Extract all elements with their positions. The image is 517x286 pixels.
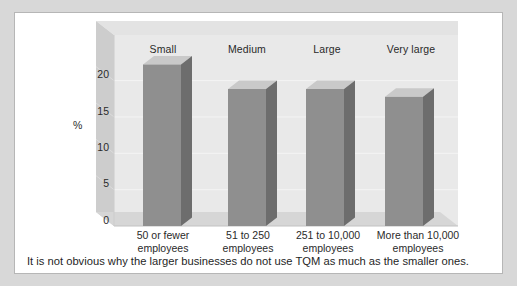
plot-ceiling <box>96 21 458 35</box>
y-tick-0: 0 <box>87 214 109 226</box>
y-tick-15: 15 <box>87 105 109 117</box>
bar-chart: Small Medium Large Very large 20 15 10 5… <box>15 13 504 245</box>
y-axis-title: % <box>73 119 82 131</box>
bar-group-large <box>306 81 355 227</box>
bar-group-small <box>143 56 192 226</box>
y-tick-5: 5 <box>87 177 109 189</box>
bar-side-medium <box>266 81 277 227</box>
bar-front-very-large <box>385 97 423 226</box>
x-label-small-line1: 50 or fewer <box>120 229 206 242</box>
x-label-medium-line1: 51 to 250 <box>207 229 289 242</box>
bar-front-large <box>306 89 344 226</box>
bar-front-small <box>143 65 181 227</box>
figure-panel: Small Medium Large Very large 20 15 10 5… <box>14 12 503 274</box>
category-header-medium: Medium <box>215 43 279 55</box>
bar-side-large <box>344 81 355 227</box>
bar-side-very-large <box>423 88 434 226</box>
y-tick-10: 10 <box>87 141 109 153</box>
category-header-large: Large <box>297 43 357 55</box>
category-header-small: Small <box>133 43 193 55</box>
figure-caption: It is not obvious why the larger busines… <box>15 247 502 274</box>
category-header-very-large: Very large <box>370 43 452 55</box>
y-tick-20: 20 <box>87 68 109 80</box>
bar-group-medium <box>228 81 277 227</box>
bar-group-very-large <box>385 88 434 226</box>
plot-left-wall <box>96 21 114 226</box>
x-label-large-line1: 251 to 10,000 <box>286 229 370 242</box>
bar-front-medium <box>228 89 266 226</box>
bar-side-small <box>181 56 192 226</box>
x-label-very-large-line1: More than 10,000 <box>366 229 470 242</box>
